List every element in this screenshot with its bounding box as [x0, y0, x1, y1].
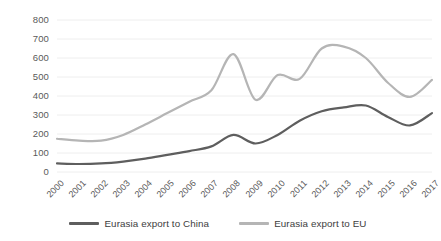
- legend-item-label: Eurasia export to EU: [274, 218, 366, 229]
- gridlines: [57, 20, 432, 172]
- series-line: [57, 45, 432, 141]
- legend-item[interactable]: Eurasia export to China: [69, 218, 209, 229]
- chart-legend: Eurasia export to ChinaEurasia export to…: [0, 218, 436, 229]
- legend-line-icon: [69, 222, 99, 224]
- legend-line-icon: [239, 222, 269, 224]
- series-lines: [57, 45, 432, 164]
- legend-item-label: Eurasia export to China: [104, 218, 209, 229]
- legend-item[interactable]: Eurasia export to EU: [239, 218, 366, 229]
- series-line: [57, 105, 432, 164]
